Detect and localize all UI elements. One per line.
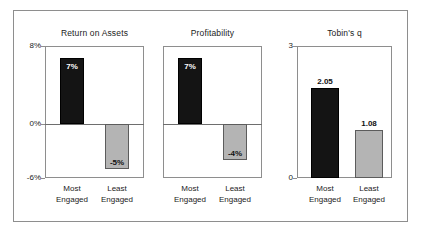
bar-value-roa-least-engaged: -5% <box>105 158 129 167</box>
panel-title-return-on-assets: Return on Assets <box>45 28 144 38</box>
xcat-prof-most-line1: Most <box>166 184 214 195</box>
xcat-tobinsq-least-line1: Least <box>345 184 393 195</box>
ytick-label-tobinsq-top: 3 <box>283 41 293 50</box>
ytick-mark-roa-top <box>41 46 45 47</box>
bar-value-roa-most-engaged: 7% <box>60 62 84 71</box>
ytick-label-roa-zero: 0% <box>20 119 41 128</box>
xcat-tobinsq-least-line2: Engaged <box>345 195 393 206</box>
xcat-profitability-least-engaged: Least Engaged <box>211 184 259 205</box>
xcat-roa-most-line1: Most <box>48 184 96 195</box>
xcat-roa-most-engaged: Most Engaged <box>48 184 96 205</box>
bar-value-profitability-least-engaged: -4% <box>223 149 247 158</box>
xcat-roa-least-line1: Least <box>93 184 141 195</box>
panel-tobins-q: Tobin's q 3 0 2.05 1.08 Most Engaged Lea… <box>297 0 392 235</box>
panel-title-profitability: Profitability <box>163 28 262 38</box>
ytick-label-roa-bottom: -6% <box>20 173 41 182</box>
bar-value-tobinsq-most-engaged: 2.05 <box>305 77 345 86</box>
zero-line-profitability <box>163 124 262 125</box>
bar-tobinsq-least-engaged <box>355 130 383 178</box>
bar-value-profitability-most-engaged: 7% <box>178 62 202 71</box>
exhibit-figure: Return on Assets 8% 0% -6% 7% -5% Most E… <box>0 0 427 235</box>
xcat-profitability-most-engaged: Most Engaged <box>166 184 214 205</box>
ytick-label-roa-top: 8% <box>20 41 41 50</box>
zero-line-roa <box>45 124 144 125</box>
xcat-roa-least-engaged: Least Engaged <box>93 184 141 205</box>
xcat-roa-most-line2: Engaged <box>48 195 96 206</box>
panel-title-tobins-q: Tobin's q <box>297 28 392 38</box>
ytick-mark-roa-bottom <box>41 178 45 179</box>
ytick-label-tobinsq-zero: 0 <box>283 173 293 182</box>
xcat-prof-least-line2: Engaged <box>211 195 259 206</box>
xcat-tobinsq-most-engaged: Most Engaged <box>301 184 349 205</box>
panel-return-on-assets: Return on Assets 8% 0% -6% 7% -5% Most E… <box>45 0 144 235</box>
bar-tobinsq-most-engaged <box>311 88 339 178</box>
xcat-roa-least-line2: Engaged <box>93 195 141 206</box>
ytick-mark-tobinsq-top <box>293 46 297 47</box>
xcat-tobinsq-least-engaged: Least Engaged <box>345 184 393 205</box>
ytick-mark-tobinsq-zero <box>293 178 297 179</box>
panel-profitability: Profitability 7% -4% Most Engaged Least … <box>163 0 262 235</box>
xcat-prof-least-line1: Least <box>211 184 259 195</box>
xcat-prof-most-line2: Engaged <box>166 195 214 206</box>
bar-value-tobinsq-least-engaged: 1.08 <box>349 119 389 128</box>
xcat-tobinsq-most-line2: Engaged <box>301 195 349 206</box>
xcat-tobinsq-most-line1: Most <box>301 184 349 195</box>
